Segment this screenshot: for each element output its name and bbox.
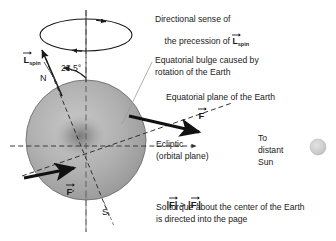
l-spin-subscript: spin [238, 41, 250, 47]
precession-caption-text: the precession of [165, 36, 233, 46]
earth-core-shading [54, 114, 106, 158]
force-f-prime-label: F′ [56, 175, 74, 208]
sun-caption-line1: To [258, 133, 267, 143]
vector-arrow-overbar [191, 196, 197, 200]
vector-arrow-overbar [66, 183, 72, 187]
bulge-caption-line1: Equatorial bulge caused by [155, 55, 259, 65]
force-f-text: F [198, 110, 204, 121]
sun-disc-icon [310, 139, 326, 155]
ecliptic-caption-line2: (orbital plane) [156, 151, 209, 161]
force-prime-mark: ′ [72, 189, 74, 196]
precession-caption-line2: the precession of Lspin [155, 26, 249, 56]
sun-caption-line3: Sun [258, 157, 273, 167]
l-spin-subscript-text: spin [29, 60, 41, 66]
ecliptic-caption-line1: Ecliptic [156, 139, 183, 149]
force-f-prime-symbol: F [66, 186, 72, 197]
precession-diagram: Directional sense of the precession of L… [0, 0, 336, 241]
south-pole-label: S [102, 207, 108, 218]
vector-arrow-overbar [23, 51, 29, 55]
force-f-symbol: F [198, 110, 204, 121]
tilt-angle-label: 23.5° [61, 63, 81, 73]
precession-caption-line1: Directional sense of [155, 14, 230, 24]
l-spin-inline-vector: L [232, 36, 237, 46]
torque-caption-line2: is directed into the page [156, 214, 247, 224]
l-symbol: L [232, 36, 237, 46]
vector-arrow-overbar [198, 107, 204, 111]
force-f-label: F [188, 99, 204, 132]
l-spin-label: Lspin [13, 43, 41, 76]
equatorial-plane-caption: Equatorial plane of the Earth [166, 92, 275, 102]
vector-arrow-overbar [232, 33, 237, 37]
vector-arrow-overbar [169, 196, 175, 200]
sun-caption-line2: distant [258, 145, 283, 155]
torque-caption-line1: So torque about the center of the Earth [156, 202, 305, 212]
north-pole-label: N [40, 73, 47, 84]
force-f-prime-text: F [66, 186, 72, 197]
bulge-caption-line2: rotation of the Earth [155, 67, 230, 77]
